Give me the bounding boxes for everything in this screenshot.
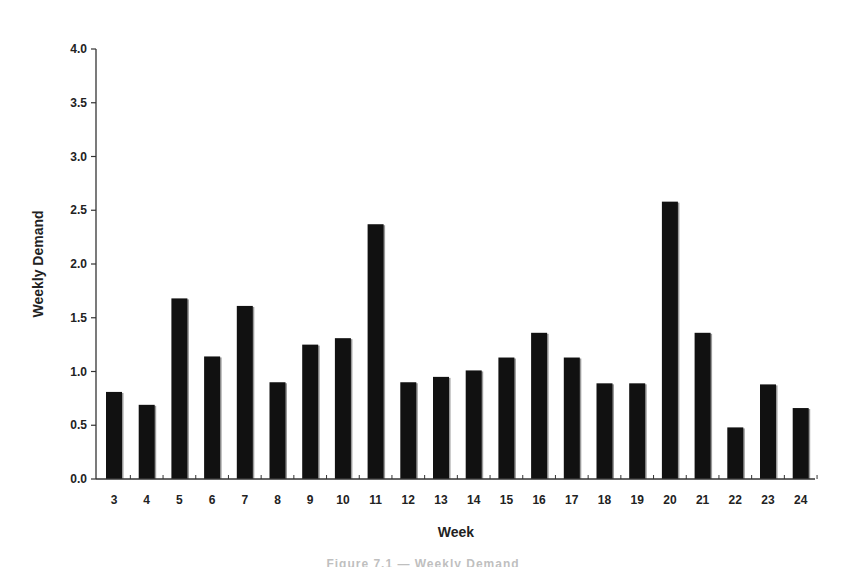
x-tick-label: 14 [467,493,481,507]
y-tick-label: 4.0 [70,42,87,56]
x-tick-label: 18 [598,493,612,507]
x-tick-label: 4 [143,493,150,507]
bar-week-20 [662,202,678,479]
bar-week-16 [531,333,547,479]
bar-week-8 [270,382,286,479]
y-axis: 0.00.51.01.52.02.53.03.54.0 [70,42,96,486]
x-tick-label: 16 [532,493,546,507]
y-tick-label: 2.5 [70,203,87,217]
x-tick-label: 9 [307,493,314,507]
bar-chart: 0.00.51.01.52.02.53.03.54.0 345678910111… [0,0,846,567]
x-tick-label: 6 [209,493,216,507]
y-tick-label: 3.5 [70,96,87,110]
x-tick-label: 24 [794,493,808,507]
y-axis-title: Weekly Demand [30,210,46,317]
x-tick-label: 20 [663,493,677,507]
bar-week-12 [400,382,416,479]
x-tick-label: 11 [369,493,382,507]
bar-week-14 [466,370,482,479]
bar-week-19 [629,383,645,479]
bar-week-6 [204,356,220,479]
y-tick-label: 1.0 [70,365,87,379]
bar-week-22 [727,427,743,479]
y-tick-label: 3.0 [70,150,87,164]
bar-week-15 [498,358,514,479]
bar-week-9 [302,345,318,479]
bar-week-17 [564,358,580,479]
x-tick-label: 15 [500,493,514,507]
bar-week-18 [597,383,613,479]
bar-week-3 [106,392,122,479]
bar-week-5 [171,298,187,479]
x-tick-label: 19 [631,493,645,507]
x-tick-label: 22 [729,493,743,507]
bar-week-24 [793,408,809,479]
bars [106,202,810,479]
bar-week-23 [760,384,776,479]
x-tick-label: 5 [176,493,183,507]
x-axis: 3456789101112131415161718192021222324 [96,475,817,507]
x-axis-title: Week [438,524,475,540]
bar-week-10 [335,338,351,479]
y-tick-label: 1.5 [70,311,87,325]
x-tick-label: 13 [434,493,448,507]
x-tick-label: 3 [111,493,118,507]
figure-caption: Figure 7.1 — Weekly Demand [0,553,846,567]
x-tick-label: 12 [402,493,416,507]
bar-week-21 [695,333,711,479]
y-tick-label: 0.0 [70,472,87,486]
bar-week-11 [368,224,384,479]
x-tick-label: 8 [274,493,281,507]
bar-week-4 [139,405,155,479]
x-tick-label: 17 [565,493,579,507]
x-tick-label: 10 [336,493,350,507]
x-tick-label: 7 [241,493,248,507]
x-tick-label: 23 [761,493,775,507]
bar-week-7 [237,306,253,479]
bar-week-13 [433,377,449,479]
y-tick-label: 0.5 [70,418,87,432]
y-tick-label: 2.0 [70,257,87,271]
x-tick-label: 21 [696,493,710,507]
